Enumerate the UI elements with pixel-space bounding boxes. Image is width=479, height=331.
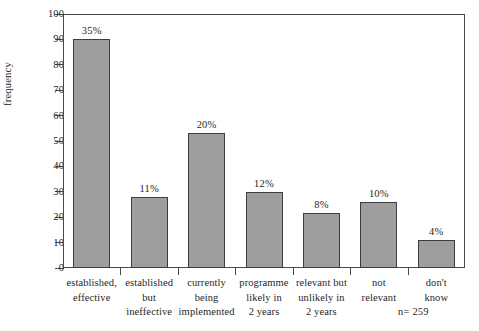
x-axis-category-label-line: established, <box>61 276 122 291</box>
sample-size-note: n= 259 <box>398 306 429 317</box>
x-axis-category-label-line: currently <box>176 276 237 291</box>
bar <box>131 197 168 268</box>
x-axis-category-label-line: programme <box>233 276 294 291</box>
bar-value-label: 4% <box>406 226 466 237</box>
bar <box>303 213 340 268</box>
x-axis-tick <box>408 268 409 275</box>
x-axis-category-label: notrelevant <box>348 276 409 305</box>
bar-value-label: 11% <box>119 183 179 194</box>
x-axis-tick <box>350 268 351 275</box>
y-axis-tick-label: 100 <box>38 9 64 19</box>
y-axis-tick-label: 30 <box>38 187 64 197</box>
x-axis-tick <box>120 268 121 275</box>
x-axis-category-label-line: established <box>118 276 179 291</box>
x-axis-category-label-line: implemented <box>176 305 237 320</box>
y-axis-tick-label: 50 <box>38 136 64 146</box>
bar-value-label: 35% <box>62 25 122 36</box>
x-axis-category-label-line: 2 years <box>291 305 352 320</box>
x-axis-category-label: don'tknow <box>406 276 467 305</box>
x-axis-category-label-line: know <box>406 291 467 306</box>
y-axis-tick-label: 20 <box>38 212 64 222</box>
x-axis-category-label-line: relevant but <box>291 276 352 291</box>
y-axis-tick-label: 0 <box>38 263 64 273</box>
y-axis-tick-label: 10 <box>38 238 64 248</box>
bar-chart-figure: frequency 0102030405060708090100 35%11%2… <box>0 0 479 331</box>
bar-value-label: 8% <box>291 199 351 210</box>
bar <box>418 240 455 268</box>
x-axis-category-label-line: 2 years <box>233 305 294 320</box>
bar <box>360 202 397 268</box>
bar <box>73 39 110 268</box>
x-axis-category-label-line: likely in <box>233 291 294 306</box>
y-axis-tick-label: 60 <box>38 111 64 121</box>
bar-value-label: 12% <box>234 178 294 189</box>
x-axis-category-label: established,effective <box>61 276 122 305</box>
x-axis-category-label-line: unlikely in <box>291 291 352 306</box>
x-axis-category-label-line: being <box>176 291 237 306</box>
bar <box>246 192 283 268</box>
x-axis-category-label-line: effective <box>61 291 122 306</box>
x-axis-category-label: currentlybeingimplemented <box>176 276 237 320</box>
x-axis-category-label: establishedbutineffective <box>118 276 179 320</box>
x-axis-tick <box>293 268 294 275</box>
bar-value-label: 20% <box>177 119 237 130</box>
x-axis-category-label-line: ineffective <box>118 305 179 320</box>
x-axis-category-label-line: not <box>348 276 409 291</box>
bar <box>188 133 225 268</box>
x-axis-category-label-line: relevant <box>348 291 409 306</box>
y-axis-tick-label: 70 <box>38 85 64 95</box>
bar-value-label: 10% <box>349 188 409 199</box>
x-axis-category-label-line: but <box>118 291 179 306</box>
x-axis-category-label: relevant butunlikely in2 years <box>291 276 352 320</box>
x-axis-category-label-line: don't <box>406 276 467 291</box>
y-axis-tick-label: 90 <box>38 34 64 44</box>
x-axis-category-label: programmelikely in2 years <box>233 276 294 320</box>
x-axis-tick <box>178 268 179 275</box>
y-axis-tick-label: 80 <box>38 60 64 70</box>
y-axis-tick-label: 40 <box>38 161 64 171</box>
x-axis-tick <box>235 268 236 275</box>
